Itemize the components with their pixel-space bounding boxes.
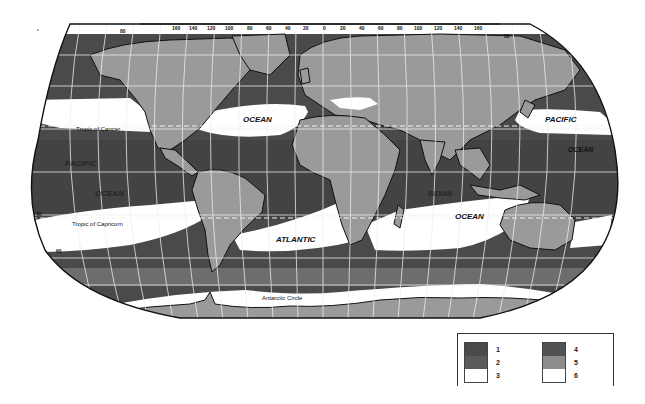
map-legend: 1 2 3 4 5 6 <box>457 333 614 386</box>
ocean-southern-light-band <box>0 268 645 286</box>
label-ocean-n-atlantic: OCEAN <box>243 115 272 124</box>
edge-tick-top-left: 80 <box>120 28 126 34</box>
lon-tick: 20 <box>340 25 346 31</box>
legend-swatch-stack-1 <box>464 342 488 383</box>
lon-tick: 100 <box>414 25 423 31</box>
lon-tick: 20 <box>303 25 309 31</box>
edge-tick-left-bottom: 60 <box>56 248 62 254</box>
lon-tick: 140 <box>189 25 198 31</box>
land-uk <box>300 68 310 84</box>
label-indian: INDIAN <box>428 190 453 197</box>
label-pacific-ne: PACIFIC <box>545 115 577 124</box>
label-ocean-ne: OCEAN <box>568 146 594 153</box>
label-tropic-of-capricorn: Tropic of Capricorn <box>72 221 123 227</box>
lon-tick: 40 <box>285 25 291 31</box>
legend-swatch-6 <box>543 369 565 382</box>
lon-tick: 80 <box>397 25 403 31</box>
legend-label-4: 4 <box>574 346 578 353</box>
edge-tick-top-right: 80 <box>504 33 510 39</box>
legend-label-3: 3 <box>496 372 500 379</box>
label-tropic-of-cancer: Tropic of Cancer <box>76 126 120 132</box>
lon-tick: 60 <box>266 25 272 31</box>
legend-swatch-3 <box>465 369 487 382</box>
lon-tick: 100 <box>225 25 234 31</box>
lon-tick: 120 <box>207 25 216 31</box>
legend-swatch-5 <box>543 356 565 369</box>
edge-tick-left-mid: 40 <box>36 211 42 217</box>
speck <box>37 29 39 31</box>
legend-label-5: 5 <box>574 359 578 366</box>
legend-swatch-stack-2 <box>542 342 566 383</box>
label-atlantic: ATLANTIC <box>275 235 316 244</box>
legend-label-1: 1 <box>496 346 500 353</box>
lon-tick: 140 <box>454 25 463 31</box>
legend-swatch-1 <box>465 343 487 356</box>
lon-tick: 80 <box>247 25 253 31</box>
legend-label-6: 6 <box>574 372 578 379</box>
legend-label-2: 2 <box>496 359 500 366</box>
lon-tick: 40 <box>359 25 365 31</box>
lon-tick: 120 <box>434 25 443 31</box>
lon-tick: 160 <box>474 25 483 31</box>
label-ocean-sw: OCEAN <box>95 189 124 198</box>
lon-tick: 60 <box>378 25 384 31</box>
lon-tick: 0 <box>323 25 326 31</box>
legend-swatch-4 <box>543 343 565 356</box>
legend-swatch-2 <box>465 356 487 369</box>
label-pacific-sw: PACIFIC <box>65 159 97 168</box>
label-antarctic-circle: Antarctic Circle <box>262 295 303 301</box>
label-ocean-indian: OCEAN <box>455 212 484 221</box>
lon-tick: 160 <box>172 25 181 31</box>
